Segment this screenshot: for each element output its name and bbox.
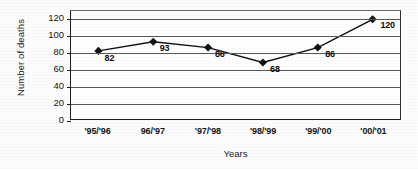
x-axis-tick-label: '99/'00 — [305, 126, 331, 136]
x-axis-tick-label: '00/'01 — [360, 126, 386, 136]
data-point-label: 86 — [325, 49, 335, 59]
y-axis-tick-label-group: 020406080100120 — [30, 10, 64, 120]
data-point-marker — [314, 44, 322, 52]
data-point-marker — [259, 58, 267, 66]
data-point-marker — [204, 44, 212, 52]
data-point-marker — [149, 38, 157, 46]
y-axis-tick-mark — [67, 36, 71, 37]
gridline — [71, 19, 400, 20]
y-axis-tick-label: 60 — [30, 64, 64, 74]
gridline — [71, 87, 400, 88]
y-axis-tick-label: 0 — [30, 115, 64, 125]
y-axis-tick-label: 40 — [30, 81, 64, 91]
data-point-label: 120 — [380, 20, 394, 30]
series-line-path-group — [71, 11, 400, 119]
x-axis-tick-label: 96/'97 — [141, 126, 165, 136]
gridline — [71, 53, 400, 54]
gridline — [71, 36, 400, 37]
data-point-label: 93 — [160, 43, 170, 53]
y-axis-tick-label: 120 — [30, 14, 64, 24]
y-axis-tick-mark — [67, 87, 71, 88]
x-axis-title: Years — [70, 148, 401, 159]
plot-area: 8293866886120 — [70, 10, 401, 120]
line-chart-figure: Number of deaths 020406080100120 8293866… — [0, 0, 418, 169]
x-axis-tick-label: '95/'96 — [85, 126, 111, 136]
y-axis-tick-label: 80 — [30, 48, 64, 58]
y-axis-tick-mark — [67, 121, 71, 122]
y-axis-tick-label: 100 — [30, 31, 64, 41]
y-axis-title: Number of deaths — [15, 0, 26, 118]
x-axis-tick-label: '98/'99 — [250, 126, 276, 136]
data-point-label: 82 — [105, 53, 115, 63]
data-point-label: 86 — [215, 49, 225, 59]
y-axis-tick-mark — [67, 53, 71, 54]
gridline — [71, 70, 400, 71]
y-axis-tick-mark — [67, 104, 71, 105]
gridline — [71, 104, 400, 105]
data-point-label: 68 — [270, 64, 280, 74]
y-axis-tick-mark — [67, 70, 71, 71]
x-axis-tick-label: '97/'98 — [195, 126, 221, 136]
y-axis-tick-label: 20 — [30, 98, 64, 108]
x-axis-tick-label-group: '95/'9696/'97'97/'98'98/'99'99/'00'00/'0… — [70, 126, 401, 142]
y-axis-tick-mark — [67, 19, 71, 20]
